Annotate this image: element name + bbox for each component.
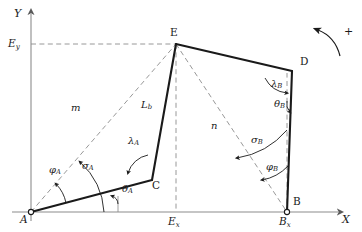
m-base: m [71, 102, 80, 113]
sigma-a-subscript: A [89, 164, 94, 172]
linkage-diagram-figure: Y X Ey Ex Bx A B C D E m n Lb φA σA θA λ… [0, 0, 362, 232]
bar-A-C [31, 180, 152, 212]
angle-label-phi-a: φA [49, 165, 61, 176]
point-label-A: A [20, 214, 28, 225]
ey-coordinate-label: Ey [8, 38, 20, 50]
bar-C-E [152, 44, 176, 180]
angle-label-theta-a: θA [122, 184, 133, 195]
x-axis-label: X [342, 214, 350, 225]
phi-b-subscript: B [273, 165, 278, 173]
link-length-label-lb: Lb [141, 100, 152, 111]
rotation-positive-sign-label: + [344, 26, 353, 37]
theta-a-arc [112, 196, 118, 204]
lambda-a-arc [128, 155, 148, 173]
point-label-D: D [300, 56, 308, 67]
ex-subscript: x [176, 220, 180, 229]
point-label-B: B [293, 196, 301, 207]
phi-a-subscript: A [56, 168, 61, 176]
angle-label-sigma-a: σA [82, 161, 94, 172]
angle-label-theta-b: θB [274, 99, 285, 110]
phi-b-base: φ [266, 161, 273, 172]
ex-coordinate-label: Ex [168, 216, 180, 228]
diagram-canvas [0, 0, 362, 232]
angle-label-sigma-b: σB [251, 135, 263, 146]
point-label-E: E [170, 27, 178, 38]
bx-coordinate-label: Bx [279, 216, 291, 228]
theta-a-subscript: A [128, 187, 133, 195]
ey-base: E [8, 37, 16, 49]
ey-subscript: y [16, 42, 20, 51]
angle-label-lambda-a: λA [128, 136, 139, 147]
link-length-label-m: m [71, 103, 80, 113]
bx-base: B [279, 215, 287, 227]
phi-a-arc [56, 184, 66, 203]
rotation-arc-arrow-icon [318, 30, 340, 56]
angle-label-lambda-b: λB [271, 79, 282, 90]
bar-E-D [176, 44, 292, 71]
lambda-b-subscript: B [277, 82, 282, 90]
angle-label-phi-b: φB [266, 162, 278, 173]
bx-subscript: x [287, 220, 291, 229]
n-base: n [211, 120, 217, 131]
sigma-a-base: σ [82, 160, 89, 171]
point-label-C: C [152, 180, 160, 191]
link-length-label-n: n [211, 121, 217, 131]
y-axis-label: Y [14, 8, 21, 19]
rotation-direction-indicator [318, 30, 340, 56]
linkage-bars-group [31, 44, 292, 212]
chord-n-line [176, 44, 287, 212]
sigma-b-base: σ [251, 134, 258, 145]
lambda-a-subscript: A [134, 139, 139, 147]
lb-subscript: b [148, 103, 152, 111]
joint-B-marker [284, 209, 289, 214]
bar-D-B [287, 71, 292, 212]
lb-base: L [141, 99, 148, 110]
sigma-b-subscript: B [258, 138, 263, 146]
joint-A-marker [28, 209, 33, 214]
theta-b-subscript: B [280, 102, 285, 110]
phi-a-base: φ [49, 164, 56, 175]
ex-base: E [168, 215, 176, 227]
